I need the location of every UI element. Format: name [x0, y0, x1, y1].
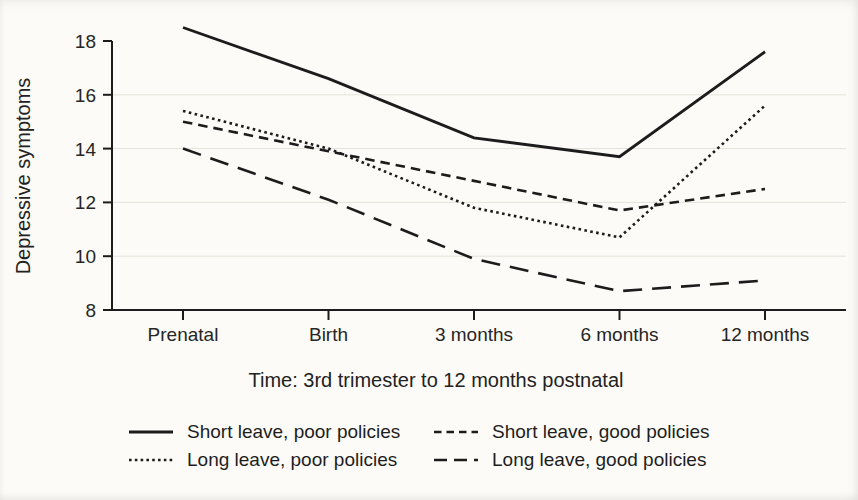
y-tick-label: 10 — [75, 246, 96, 267]
x-category-label: 6 months — [580, 324, 658, 345]
series-line-short-dash — [183, 122, 765, 211]
y-tick-label: 18 — [75, 31, 96, 52]
legend-item: Short leave, poor policies — [128, 421, 433, 443]
line-chart: 81012141618PrenatalBirth3 months6 months… — [0, 0, 858, 412]
legend-label: Long leave, poor policies — [187, 449, 397, 471]
tick-labels: 81012141618PrenatalBirth3 months6 months… — [75, 31, 810, 345]
series-line-dotted — [183, 106, 765, 238]
series-line-solid — [183, 28, 765, 157]
chart-legend: Short leave, poor policiesShort leave, g… — [128, 421, 710, 471]
y-tick-label: 8 — [85, 300, 96, 321]
scanned-chart-page: 81012141618PrenatalBirth3 months6 months… — [0, 0, 858, 500]
series-line-long-dash — [183, 149, 765, 292]
legend-item: Long leave, poor policies — [128, 449, 433, 471]
legend-item: Short leave, good policies — [433, 421, 710, 443]
x-category-label: Birth — [309, 324, 348, 345]
legend-label: Short leave, poor policies — [187, 421, 400, 443]
axis-lines — [112, 41, 846, 310]
legend-sample-solid-icon — [128, 425, 174, 439]
gridlines — [113, 95, 846, 256]
legend-label: Short leave, good policies — [492, 421, 710, 443]
y-tick-label: 16 — [75, 85, 96, 106]
x-category-label: Prenatal — [148, 324, 219, 345]
x-axis-title: Time: 3rd trimester to 12 months postnat… — [249, 369, 624, 391]
legend-sample-long-dash-icon — [433, 453, 479, 467]
legend-sample-short-dash-icon — [433, 425, 479, 439]
legend-item: Long leave, good policies — [433, 449, 710, 471]
y-axis-title: Depressive symptoms — [12, 78, 34, 275]
y-tick-label: 12 — [75, 192, 96, 213]
data-series — [183, 28, 765, 292]
x-category-label: 3 months — [435, 324, 513, 345]
legend-sample-dotted-icon — [128, 453, 174, 467]
x-category-label: 12 months — [721, 324, 810, 345]
legend-label: Long leave, good policies — [492, 449, 706, 471]
y-tick-label: 14 — [75, 139, 97, 160]
